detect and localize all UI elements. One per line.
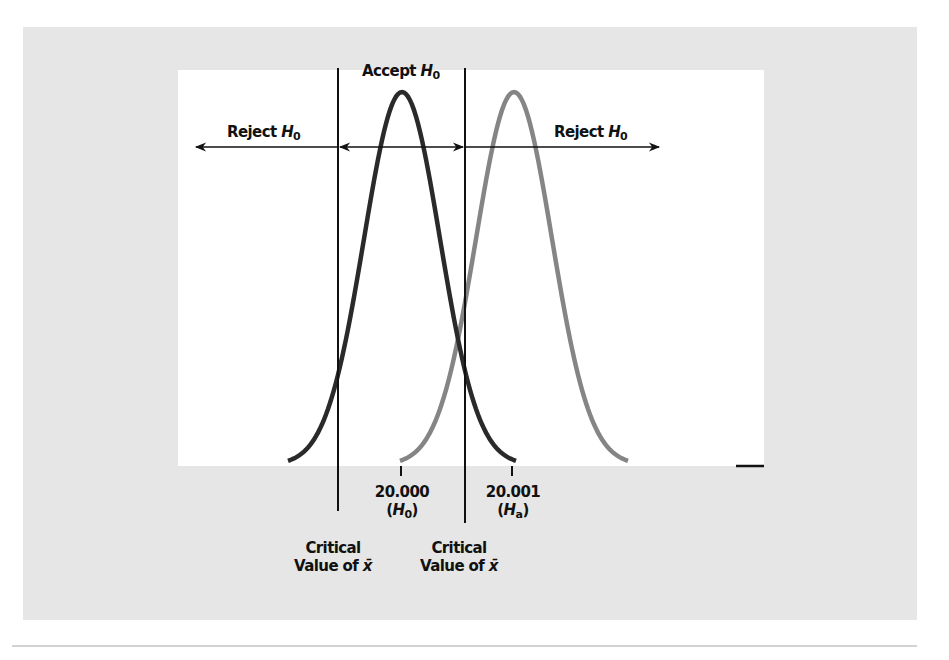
tick-label-h0: 20.000 (H0) (367, 483, 437, 524)
critical-value-label-lower: Critical Value of x̄ (288, 539, 378, 575)
critical-value-label-upper: Critical Value of x̄ (414, 539, 504, 575)
accept-h0-label: Accept H0 (362, 62, 440, 85)
reject-h0-right-label: Reject H0 (554, 123, 627, 146)
reject-h0-left-label: Reject H0 (227, 123, 300, 146)
tick-label-ha: 20.001 (Ha) (478, 483, 548, 524)
